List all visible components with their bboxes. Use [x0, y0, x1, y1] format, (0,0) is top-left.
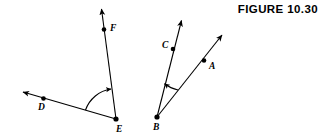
label-C: C — [162, 41, 168, 51]
point-A-dot — [202, 58, 207, 63]
label-F: F — [110, 24, 116, 34]
angle-arc-B — [165, 84, 179, 90]
label-B: B — [153, 123, 159, 133]
point-E-dot — [113, 116, 118, 121]
point-B-dot — [154, 114, 159, 119]
label-E: E — [116, 125, 122, 135]
point-F-dot — [102, 27, 107, 32]
label-A: A — [209, 62, 215, 72]
ray-BC — [157, 21, 182, 118]
label-D: D — [38, 103, 45, 113]
ray-ED — [23, 92, 116, 119]
geometry-drawing — [0, 0, 322, 138]
point-D-dot — [41, 96, 46, 101]
angle-arc-E — [86, 89, 112, 110]
figure-caption: FIGURE 10.30 — [238, 3, 318, 15]
figure-canvas: FIGURE 10.30 — [0, 0, 322, 138]
point-C-dot — [171, 47, 176, 52]
